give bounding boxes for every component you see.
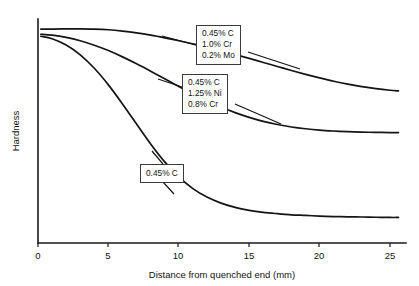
leader-right-1: [235, 104, 281, 124]
callout-line: 0.45% C: [146, 168, 178, 179]
leader-left-0: [162, 36, 196, 45]
callout-line: 1.25% Ni: [188, 88, 222, 99]
x-tick-label-1: 5: [105, 250, 110, 261]
x-tick-label-2: 10: [173, 250, 184, 261]
callout-line: 0.45% C: [202, 28, 235, 39]
x-tick-label-3: 15: [244, 250, 255, 261]
jominy-hardenability-chart: 0 5 10 15 20 25 Distance from quenched e…: [0, 0, 419, 286]
x-tick-label-5: 25: [385, 250, 396, 261]
leader-bottom-2: [163, 182, 174, 194]
callout-line: 0.45% C: [188, 77, 222, 88]
callout-box-cr-mo-steel: 0.45% C 1.0% Cr 0.2% Mo: [196, 25, 241, 65]
callout-box-ni-cr-steel: 0.45% C 1.25% Ni 0.8% Cr: [182, 74, 228, 114]
callout-line: 0.2% Mo: [202, 50, 235, 61]
y-axis-title: Hardness: [10, 110, 21, 151]
callout-box-plain-carbon-steel: 0.45% C: [140, 164, 184, 183]
callout-line: 0.8% Cr: [188, 99, 222, 110]
x-tick-label-0: 0: [35, 250, 40, 261]
x-axis-title: Distance from quenched end (mm): [149, 269, 295, 280]
x-tick-label-4: 20: [314, 250, 325, 261]
callout-line: 1.0% Cr: [202, 39, 235, 50]
leader-left-1: [158, 79, 182, 87]
